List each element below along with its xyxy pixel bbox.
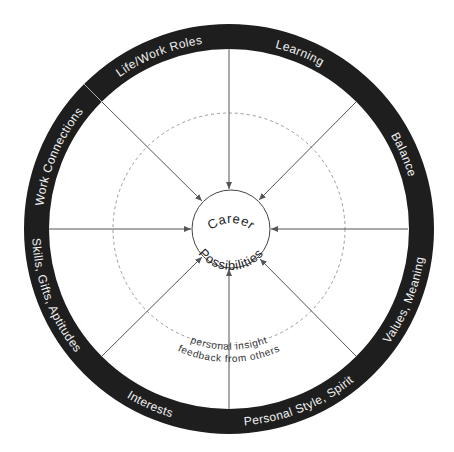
spoke-bottom-left <box>102 257 202 356</box>
spoke-bottom-right <box>260 259 356 356</box>
spoke-top-left <box>102 102 202 201</box>
spoke-top-right <box>259 102 356 200</box>
career-wheel-diagram: Career Possibilities personal insight fe… <box>0 0 454 452</box>
